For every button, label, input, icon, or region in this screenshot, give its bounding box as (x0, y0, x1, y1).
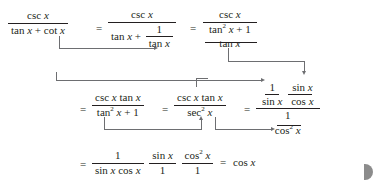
connector-tansq-to-secsq-horizontal (104, 129, 202, 130)
line3-equals-0: = (76, 158, 90, 170)
numerator: sin x (149, 150, 175, 163)
fraction-bar-inner (205, 42, 257, 43)
fraction-csctan-over-tansq-plus-one: csc x tan x tan2 x + 1 (92, 92, 144, 118)
line2-expression-2: csc x tan x sec2 x (174, 92, 226, 118)
denominator: tan x + 1 tan x (108, 22, 176, 50)
connector-secsq-horizontal (215, 129, 271, 130)
fraction-bar-sin-over-cos (288, 94, 312, 95)
numerator: csc x (8, 10, 68, 23)
numerator: 1 (272, 110, 304, 123)
equals-sign: = (158, 104, 172, 116)
line1-expression-1: csc x tan x + cot x (8, 10, 68, 36)
line2-expression-1: csc x tan x tan2 x + 1 (92, 92, 144, 118)
numerator: tan2 x + 1 (206, 24, 254, 37)
fraction-cossq-over-one: cos2 x 1 (182, 150, 214, 176)
numerator: csc x tan x (174, 92, 226, 105)
denominator: 1 (182, 163, 214, 177)
denominator: 1 (149, 163, 175, 177)
equals-sign: = (92, 23, 106, 35)
denominator: 1 cos2 x (256, 108, 320, 136)
arrowhead-down-to-sin-frac (302, 71, 306, 75)
numerator: cos2 x (182, 150, 214, 163)
connector-cot-horizontal (59, 48, 154, 49)
denominator: sin x (259, 95, 285, 108)
line3-expression: 1 sin x cos x sin x 1 cos2 x 1 = cos x (92, 150, 255, 176)
connector-csc-horizontal (56, 80, 261, 81)
equals-sign: = (186, 23, 200, 35)
arrowhead-up-to-secsq (199, 116, 203, 120)
fraction-csctan-over-secsq: csc x tan x sec2 x (174, 92, 226, 118)
numerator: 1 (92, 150, 144, 163)
fraction-one-over-tan: 1 tan x (146, 24, 173, 50)
fraction-sin-over-one: sin x 1 (149, 150, 175, 176)
arrowhead-to-one-over-cossq (271, 127, 275, 131)
connector-stub-horizontal (196, 78, 208, 79)
equals-sign: = (76, 159, 90, 171)
line1-equals-1: = (92, 22, 106, 34)
fraction-csc-over-tan-plus-cot: csc x tan x + cot x (8, 10, 68, 36)
arrowhead-to-recip-tan (154, 46, 158, 50)
fraction-one-over-cossq: 1 cos2 x (272, 110, 304, 136)
fraction-csc-over-compound: csc x tan2 x + 1 tan x (203, 9, 257, 50)
connector-tansq-horizontal (228, 61, 304, 62)
next-page-marker[interactable] (364, 164, 373, 180)
line2-equals-0: = (76, 103, 90, 115)
derivation-figure: csc x tan x + cot x = csc x tan x + 1 ta… (0, 0, 384, 196)
denominator: cos x (288, 95, 316, 108)
numerator: csc x (108, 9, 176, 22)
connector-tansq-to-secsq-vertical-right (201, 119, 202, 130)
arrowhead-to-one-over-sin (261, 78, 265, 82)
numerator: 1 (259, 82, 285, 95)
numerator: sin x (288, 82, 316, 95)
numerator: 1 (146, 24, 173, 37)
equals-sign: = (76, 104, 90, 116)
equals-sign: = (240, 104, 254, 116)
fraction-one-over-sincos: 1 sin x cos x (92, 150, 144, 176)
connector-tansq-vertical-down (228, 48, 229, 62)
numerator: 1 sin x sin x cos x (256, 82, 320, 108)
equals-sign: = (216, 157, 230, 169)
line1-expression-3: csc x tan2 x + 1 tan x (203, 9, 257, 50)
line1-equals-2: = (186, 22, 200, 34)
numerator: csc x (203, 9, 257, 22)
denominator: sin x cos x (92, 163, 144, 177)
line2-equals-1: = (158, 103, 172, 115)
line2-equals-2: = (240, 103, 254, 115)
fraction-bar-one-over-cossq (277, 125, 301, 126)
line1-expression-2: csc x tan x + 1 tan x (108, 9, 176, 50)
denominator: tan2 x + 1 tan x (203, 22, 257, 50)
fraction-bar-one-over-sin (265, 94, 279, 95)
line3-result: cos x (233, 156, 255, 168)
fraction-tansq-plus-one-over-tan: tan2 x + 1 tan x (206, 24, 254, 50)
numerator: csc x tan x (92, 92, 144, 105)
denominator: tan2 x + 1 (92, 105, 144, 119)
denominator: tan x + cot x (8, 23, 68, 37)
fraction-csc-over-tan-plus-recip: csc x tan x + 1 tan x (108, 9, 176, 50)
